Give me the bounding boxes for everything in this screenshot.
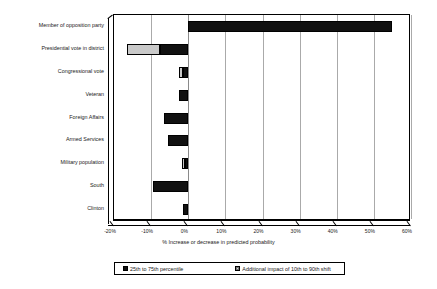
legend-label-iqr: 25th to 75th percentile (130, 266, 183, 272)
bar-member-of-opposition-party-iqr (188, 21, 392, 32)
legend-label-extended: Additional impact of 10th to 90th shift (242, 266, 330, 272)
bar-congressional-vote-iqr (183, 67, 189, 78)
plot-area (113, 14, 410, 220)
tick-label-60: 60% (395, 228, 419, 234)
legend-swatch-hatched-icon (235, 266, 240, 271)
bar-presidential-vote-in-district-ext (127, 44, 160, 55)
bar-chart: Member of opposition partyPresidential v… (0, 0, 437, 289)
gridline-60 (411, 15, 412, 219)
bar-armed-services-iqr (168, 135, 188, 146)
category-label-armed-services: Armed Services (0, 136, 104, 143)
tick-label--10: -10% (135, 228, 159, 234)
category-label-veteran: Veteran (0, 91, 104, 98)
legend-swatch-dark-icon (123, 266, 128, 271)
tick-label-0: 0% (172, 228, 196, 234)
category-label-foreign-affairs: Foreign Affairs (0, 114, 104, 121)
tick-label-10: 10% (209, 228, 233, 234)
category-label-member-of-opposition-party: Member of opposition party (0, 22, 104, 29)
chart-legend: 25th to 75th percentile Additional impac… (114, 262, 345, 275)
bar-clinton-iqr (183, 204, 189, 215)
x-axis-title: % Increase or decrease in predicted prob… (0, 239, 437, 245)
legend-item-iqr: 25th to 75th percentile (123, 266, 183, 272)
tick-label-40: 40% (321, 228, 345, 234)
bars-layer (114, 15, 409, 219)
category-label-clinton: Clinton (0, 205, 104, 212)
category-label-south: South (0, 182, 104, 189)
bar-foreign-affairs-iqr (164, 113, 188, 124)
tick-label--20: -20% (98, 228, 122, 234)
category-label-congressional-vote: Congressional vote (0, 68, 104, 75)
x-axis-top-line (113, 220, 410, 221)
tick-label-20: 20% (247, 228, 271, 234)
legend-item-extended: Additional impact of 10th to 90th shift (235, 266, 330, 272)
tick-label-30: 30% (284, 228, 308, 234)
bar-military-population-iqr (185, 158, 189, 169)
bar-veteran-iqr (179, 90, 188, 101)
bar-south-iqr (153, 181, 188, 192)
category-label-presidential-vote-in-district: Presidential vote in district (0, 45, 104, 52)
category-axis-labels: Member of opposition partyPresidential v… (0, 14, 104, 220)
bar-presidential-vote-in-district-iqr (160, 44, 188, 55)
tick-label-50: 50% (358, 228, 382, 234)
category-label-military-population: Military population (0, 159, 104, 166)
x-axis-line (108, 225, 410, 226)
